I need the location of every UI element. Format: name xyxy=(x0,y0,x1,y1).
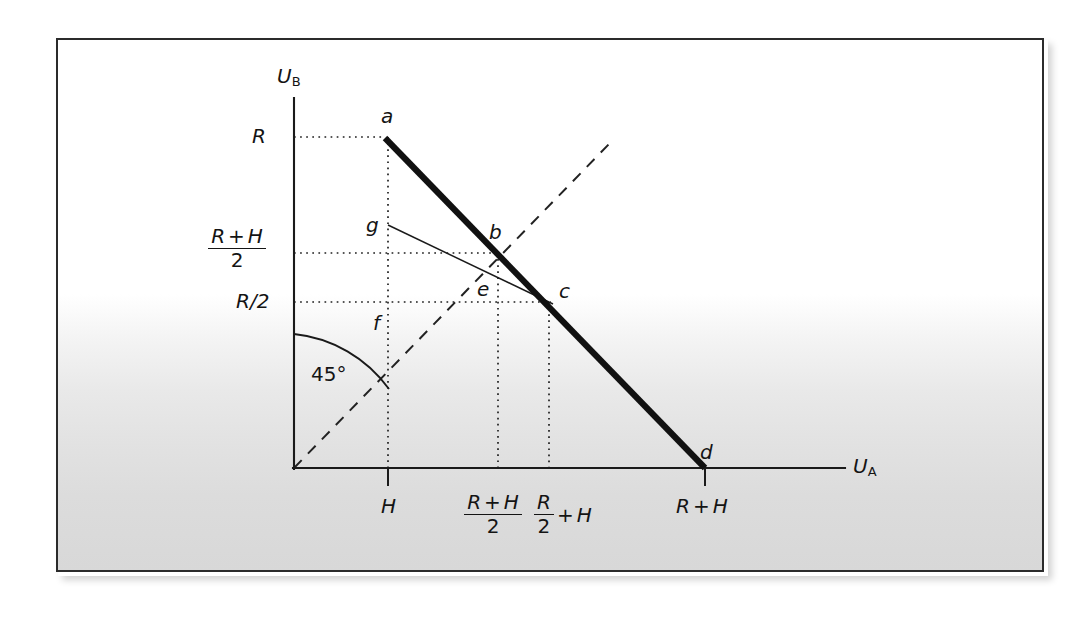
y-tick-label-R-over-2: R/2 xyxy=(236,291,269,311)
x-tick-label-R-over-2-plus-H: R 2 + H xyxy=(534,492,592,537)
x-tick-label-R-plus-H: R+H xyxy=(676,496,728,516)
point-label-g: g xyxy=(366,215,379,235)
diagonal-45-degree-line xyxy=(294,141,612,468)
angle-label-45-degrees: 45° xyxy=(311,364,346,384)
thin-line-g-to-c xyxy=(388,225,553,304)
x-tick-label-R-plus-H-over-2: R+H 2 xyxy=(452,492,534,537)
point-label-b: b xyxy=(489,222,502,242)
frontier-line-a-to-d xyxy=(385,138,705,468)
y-tick-label-R: R xyxy=(252,126,266,146)
y-axis-label: UB xyxy=(277,66,301,88)
point-label-f: f xyxy=(373,313,380,333)
x-axis-label: UA xyxy=(853,456,877,478)
point-label-c: c xyxy=(559,281,570,301)
point-label-d: d xyxy=(700,442,713,462)
point-label-e: e xyxy=(477,279,489,299)
y-tick-label-R-plus-H-over-2: R+H 2 xyxy=(196,226,278,271)
point-label-a: a xyxy=(381,106,393,126)
figure-page: UB UA R R+H 2 R/2 H R+H 2 R 2 + H R+H xyxy=(0,0,1091,622)
x-tick-label-H: H xyxy=(381,496,396,516)
